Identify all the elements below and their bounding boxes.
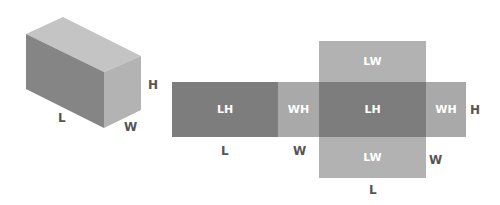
net-bottom-width-label: W bbox=[429, 154, 442, 166]
box-width-label: W bbox=[124, 121, 137, 133]
net-length-label: L bbox=[221, 145, 229, 157]
face-label: LH bbox=[364, 103, 380, 116]
face-label: LW bbox=[363, 151, 381, 164]
face-label: WH bbox=[288, 103, 309, 116]
net-height-label: H bbox=[470, 104, 480, 116]
net-bottom-length-label: L bbox=[369, 184, 377, 196]
face-lw-bottom: LW bbox=[319, 137, 426, 178]
box-height-label: H bbox=[148, 79, 158, 91]
face-wh-right: WH bbox=[426, 82, 466, 137]
face-lw-top: LW bbox=[319, 41, 426, 82]
box-length-label: L bbox=[58, 112, 66, 124]
face-label: LW bbox=[363, 55, 381, 68]
face-lh-center: LH bbox=[319, 82, 426, 137]
face-label: WH bbox=[435, 103, 456, 116]
rectangular-prism-illustration bbox=[0, 0, 170, 140]
net-width-label: W bbox=[293, 145, 306, 157]
face-lh-left: LH bbox=[172, 82, 278, 137]
face-label: LH bbox=[217, 103, 233, 116]
face-wh-left: WH bbox=[278, 82, 319, 137]
